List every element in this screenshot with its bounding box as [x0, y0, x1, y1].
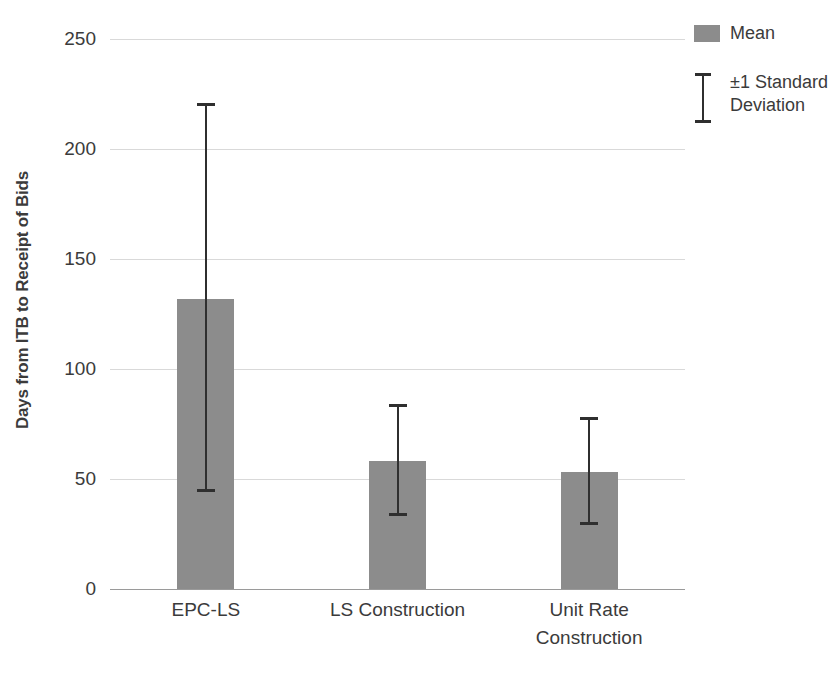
- legend-item-mean: Mean: [694, 22, 839, 45]
- error-bar-cap-bottom: [580, 522, 598, 525]
- plot-area: [110, 39, 685, 589]
- error-bar-cap-top: [389, 404, 407, 407]
- x-axis-label-line: Unit Rate: [493, 596, 685, 624]
- error-bar-stem: [702, 73, 704, 123]
- x-axis-label-line: Construction: [493, 624, 685, 652]
- error-bar-cap-top: [695, 73, 711, 76]
- error-bar-stem: [397, 404, 399, 516]
- error-bar-cap-top: [197, 103, 215, 106]
- y-tick-label-250: 250: [44, 28, 106, 50]
- error-bar-cap-bottom: [695, 120, 711, 123]
- y-tick-label-200: 200: [44, 138, 106, 160]
- error-bar-stem: [205, 103, 207, 492]
- y-axis-title: Days from ITB to Receipt of Bids: [0, 0, 46, 600]
- legend-label-std-line-2: Deviation: [730, 94, 828, 117]
- y-tick-label-150: 150: [44, 248, 106, 270]
- gridline-0: [110, 589, 685, 590]
- y-axis-title-text: Days from ITB to Receipt of Bids: [13, 171, 33, 429]
- legend-label-std-line-1: ±1 Standard: [730, 71, 828, 94]
- gridline-200: [110, 149, 685, 150]
- error-bar-cap-top: [580, 417, 598, 420]
- x-axis-label-line: EPC-LS: [110, 596, 302, 624]
- x-axis-label-unit-rate-construction: Unit RateConstruction: [493, 596, 685, 651]
- x-axis-label-ls-construction: LS Construction: [302, 596, 494, 624]
- error-bar-icon: [694, 73, 720, 123]
- x-axis-label-line: LS Construction: [302, 596, 494, 624]
- legend: Mean ±1 Standard Deviation: [694, 22, 839, 149]
- gridline-150: [110, 259, 685, 260]
- y-axis-tick-labels: 050100150200250: [44, 0, 106, 681]
- x-axis-category-labels: EPC-LSLS ConstructionUnit RateConstructi…: [110, 596, 685, 676]
- error-bar-cap-bottom: [197, 489, 215, 492]
- x-axis-label-epc-ls: EPC-LS: [110, 596, 302, 624]
- legend-label-standard-deviation: ±1 Standard Deviation: [730, 71, 828, 117]
- legend-swatch-icon: [694, 25, 720, 42]
- gridline-250: [110, 39, 685, 40]
- legend-item-standard-deviation: ±1 Standard Deviation: [694, 71, 839, 123]
- y-tick-label-50: 50: [44, 468, 106, 490]
- bar-chart-figure: Days from ITB to Receipt of Bids 0501001…: [0, 0, 839, 681]
- legend-label-mean: Mean: [730, 22, 775, 45]
- error-bar-stem: [588, 417, 590, 525]
- y-tick-label-100: 100: [44, 358, 106, 380]
- error-bar-cap-bottom: [389, 513, 407, 516]
- y-tick-label-0: 0: [44, 578, 106, 600]
